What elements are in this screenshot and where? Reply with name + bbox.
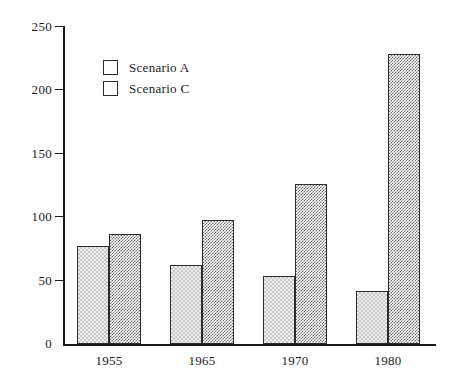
bar-1970-scenario-a <box>263 276 295 344</box>
bar-1965-scenario-c <box>202 220 234 344</box>
chart-legend: Scenario A Scenario C <box>103 57 189 99</box>
y-tick-150: 150 <box>0 147 66 160</box>
y-tick-250: 250 <box>0 20 66 33</box>
legend-label-scenario-a: Scenario A <box>129 61 189 75</box>
legend-swatch-icon-scenario-a <box>103 60 118 75</box>
y-tick-label: 200 <box>8 83 52 96</box>
legend-swatch-icon-scenario-c <box>103 81 118 96</box>
y-tick-200: 200 <box>0 83 66 96</box>
y-tick-label: 250 <box>8 20 52 33</box>
bar-1955-scenario-c <box>109 234 141 344</box>
legend-label-scenario-c: Scenario C <box>129 82 189 96</box>
y-tick-50: 50 <box>0 274 66 287</box>
x-tick-label-1970: 1970 <box>265 354 325 368</box>
y-tick-100: 100 <box>0 210 66 223</box>
bar-1980-scenario-c <box>388 54 420 344</box>
x-axis-line <box>63 344 436 346</box>
y-tick-0: 0 <box>0 337 66 350</box>
legend-item-scenario-a: Scenario A <box>103 57 189 78</box>
bar-1980-scenario-a <box>356 291 388 344</box>
legend-item-scenario-c: Scenario C <box>103 78 189 99</box>
y-tick-label: 100 <box>8 210 52 223</box>
bar-1955-scenario-a <box>77 246 109 344</box>
y-tick-label: 150 <box>8 147 52 160</box>
bar-1970-scenario-c <box>295 184 327 344</box>
bar-1965-scenario-a <box>170 265 202 344</box>
x-tick-label-1965: 1965 <box>172 354 232 368</box>
y-tick-label: 50 <box>8 274 52 287</box>
y-tick-label: 0 <box>8 337 52 350</box>
x-tick-label-1980: 1980 <box>358 354 418 368</box>
bar-chart: 050100150200250 1955196519701980 Scenari… <box>0 0 464 381</box>
x-tick-label-1955: 1955 <box>79 354 139 368</box>
